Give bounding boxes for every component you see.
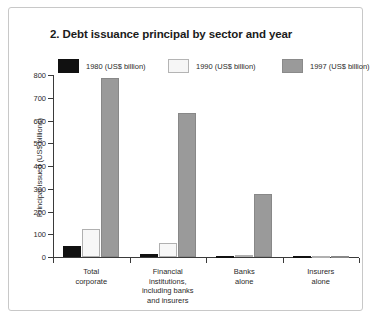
x-axis-tick [206,258,207,263]
y-axis-tick [48,121,54,122]
x-axis-tick [283,258,284,263]
y-axis-tick-label: 0 [6,253,46,262]
bar [235,255,253,257]
x-axis-category-label: Financialinstitutions,including banksand… [126,267,210,305]
y-axis-tick [48,189,54,190]
y-axis-tick-label: 300 [6,185,46,194]
bar [63,246,81,257]
bar [331,256,349,258]
x-axis-category-label: Banksalone [202,267,286,286]
plot-area: Principal issued (US$ billions) 01002003… [9,8,364,312]
y-axis-tick-label: 800 [6,71,46,80]
bar [101,78,119,257]
bar [82,229,100,257]
y-axis-tick [48,234,54,235]
bar [178,113,196,257]
y-axis-tick-label: 400 [6,162,46,171]
bar [140,254,158,257]
bar [216,256,234,258]
y-axis-tick [48,212,54,213]
x-axis-category-label: Totalcorporate [49,267,133,286]
y-axis-tick [48,143,54,144]
x-axis-tick [130,258,131,263]
figure-frame: 2. Debt issuance principal by sector and… [8,7,363,311]
y-axis-tick-label: 600 [6,117,46,126]
y-axis-tick-label: 100 [6,230,46,239]
bar [312,256,330,258]
bar [159,243,177,257]
y-axis-tick-label: 200 [6,208,46,217]
y-axis-tick-label: 700 [6,94,46,103]
y-axis-tick [48,166,54,167]
x-axis-tick [53,258,54,263]
bar [254,194,272,257]
x-axis-category-label: Insurersalone [279,267,363,286]
y-axis-tick [48,98,54,99]
y-axis-tick-label: 500 [6,139,46,148]
y-axis-tick [48,75,54,76]
bar [293,256,311,258]
x-axis-tick [359,258,360,263]
